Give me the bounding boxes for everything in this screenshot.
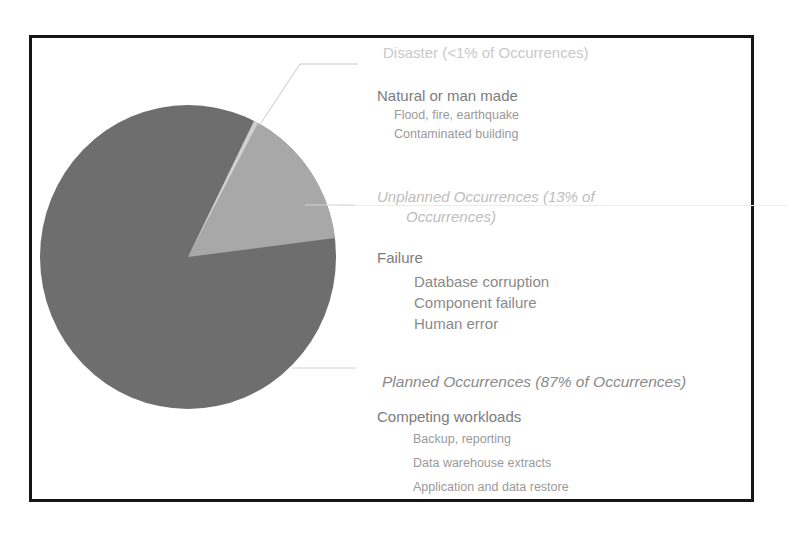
planned-item-3: Application and data restore [413, 480, 569, 494]
planned-item-2: Data warehouse extracts [413, 456, 551, 470]
unplanned-heading: Failure [377, 249, 423, 266]
disaster-item-2: Contaminated building [394, 127, 518, 141]
planned-title: Planned Occurrences (87% of Occurrences) [382, 373, 686, 391]
unplanned-title-line2: Occurrences) [406, 208, 496, 225]
leader-line-disaster [259, 64, 358, 126]
unplanned-title-line1: Unplanned Occurrences (13% of [377, 188, 595, 205]
disaster-item-1: Flood, fire, earthquake [394, 108, 519, 122]
planned-item-1: Backup, reporting [413, 432, 511, 446]
disaster-title: Disaster (<1% of Occurrences) [383, 44, 588, 61]
disaster-heading: Natural or man made [377, 87, 518, 104]
planned-heading: Competing workloads [377, 408, 521, 425]
pie-chart [0, 0, 787, 537]
unplanned-item-1: Database corruption [414, 273, 549, 290]
unplanned-item-2: Component failure [414, 294, 537, 311]
unplanned-item-3: Human error [414, 315, 498, 332]
